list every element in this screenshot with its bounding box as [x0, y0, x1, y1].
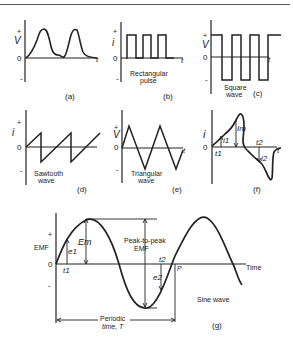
- a-zero-label: 0: [17, 54, 22, 63]
- waveform-diagram: + V 0 - t (a) + i 0 - t Rectangular puls…: [0, 0, 293, 343]
- a-x-axis-label: t: [96, 55, 99, 64]
- e-y-axis-label: V: [113, 129, 121, 140]
- b-caption: (b): [163, 92, 173, 101]
- g-e2-label: e2: [153, 273, 162, 282]
- panel-c: [211, 20, 281, 94]
- f-i2-label: i2: [261, 154, 268, 163]
- f-zero-label: 0: [203, 143, 208, 152]
- b-name-line2: pulse: [140, 77, 157, 85]
- g-name-label: Sine wave: [197, 296, 229, 303]
- a-minus-label: -: [20, 74, 23, 83]
- f-y-axis-label: i: [203, 128, 206, 140]
- d-caption: (d): [77, 185, 87, 194]
- g-p-label: P: [177, 265, 182, 272]
- e-zero-label: 0: [114, 143, 119, 152]
- pulse-waveform: [26, 29, 97, 58]
- g-peak-line2: EMF: [134, 245, 149, 252]
- g-t1-label: t1: [63, 266, 70, 275]
- f-im-label: Im: [237, 124, 246, 133]
- c-plus-label: +: [203, 32, 207, 39]
- e-name-line2: wave: [137, 177, 154, 184]
- g-plus-label: +: [48, 231, 52, 238]
- panel-a: [25, 20, 97, 82]
- rectangular-pulse-waveform: [126, 35, 174, 58]
- e-caption: (e): [172, 185, 182, 194]
- g-caption: (g): [212, 321, 222, 330]
- g-peak-line1: Peak-to-peak: [124, 237, 166, 245]
- b-plus-label: +: [113, 28, 117, 35]
- f-caption: (f): [253, 185, 261, 194]
- d-y-axis-label: i: [12, 127, 15, 138]
- d-name-line1: Sawtooth: [34, 170, 63, 177]
- c-zero-label: 0: [203, 53, 208, 62]
- a-caption: (a): [65, 92, 75, 101]
- a-plus-label: +: [17, 28, 21, 35]
- g-e1-label: e1: [68, 247, 77, 256]
- g-zero-label: 0: [48, 260, 53, 269]
- e-minus-label: -: [116, 165, 119, 174]
- d-minus-label: -: [20, 166, 23, 175]
- c-x-axis-label: t: [268, 55, 271, 64]
- g-periodic-line2: time, T: [102, 323, 124, 330]
- panel-g: [56, 213, 246, 323]
- c-caption: (c): [253, 89, 263, 98]
- g-y-axis-label: EMF: [34, 244, 49, 251]
- b-minus-label: -: [116, 74, 119, 83]
- f-t1-label: t1: [215, 149, 222, 158]
- g-minus-label: -: [48, 281, 51, 290]
- c-y-axis-label: V: [202, 39, 210, 50]
- b-x-axis-label: t: [181, 56, 184, 65]
- sine-waveform: [56, 217, 242, 308]
- g-em-label: Em: [78, 237, 92, 247]
- d-zero-label: 0: [17, 143, 22, 152]
- a-y-axis-label: V: [14, 35, 22, 46]
- e-x-axis-label: t: [183, 146, 186, 155]
- g-x-axis-label: Time: [246, 264, 261, 271]
- b-zero-label: 0: [113, 54, 118, 63]
- d-name-line2: wave: [37, 177, 54, 184]
- g-periodic-line1: Periodic: [100, 315, 126, 322]
- f-i1-label: i1: [223, 136, 229, 145]
- g-t2-label: t2: [159, 255, 166, 264]
- panel-f: [212, 110, 281, 184]
- b-y-axis-label: i: [112, 37, 115, 48]
- c-name-line2: wave: [225, 91, 242, 98]
- d-plus-label: +: [17, 119, 21, 126]
- c-minus-label: -: [205, 75, 208, 84]
- f-t2-label: t2: [256, 138, 263, 147]
